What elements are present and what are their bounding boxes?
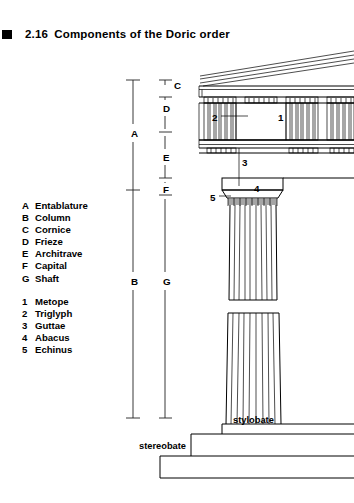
cornice-block xyxy=(199,86,354,97)
abacus xyxy=(222,178,283,190)
taenia-band xyxy=(199,140,354,148)
mutule-guttae-row xyxy=(204,97,354,103)
column-shaft-lower xyxy=(226,313,281,424)
triglyph xyxy=(327,103,354,140)
dimension-line-parts xyxy=(159,80,172,418)
callout-leaders xyxy=(219,116,248,196)
raking-cornice xyxy=(200,51,354,86)
annulets xyxy=(228,198,277,206)
dimension-line-entablature-column xyxy=(126,80,140,418)
stylobate-stereobate-steps xyxy=(160,424,354,478)
frieze-band xyxy=(199,103,354,140)
figure-root: 2.16 Components of the Doric order A Ent… xyxy=(0,0,354,503)
echinus xyxy=(222,190,283,198)
column-shaft-upper xyxy=(229,205,277,300)
regula-guttae-row xyxy=(207,148,354,153)
triglyph xyxy=(286,103,318,140)
triglyph xyxy=(204,103,236,140)
doric-order-drawing xyxy=(0,0,354,503)
metope xyxy=(236,103,286,140)
